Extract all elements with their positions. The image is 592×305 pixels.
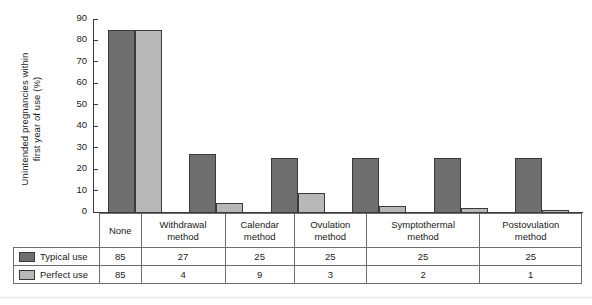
category-label-line: None [100,225,141,237]
table-cell-value: 4 [141,266,225,284]
bar-perfect [542,210,569,212]
table-cell-value: 9 [225,266,294,284]
bar-typical [271,158,298,212]
bar-typical [352,158,379,212]
y-axis-title: Unintended pregnancies within first year… [16,19,46,219]
page-bottom-edge [0,296,592,299]
category-label-line: method [367,231,480,243]
table-cell-value: 2 [366,266,480,284]
table-row-categories: NoneWithdrawalmethodCalendarmethodOvulat… [14,214,582,248]
legend-label: Typical use [40,251,88,262]
table-cell-value: 25 [366,248,480,266]
category-header-cell: Symptothermalmethod [366,214,480,248]
bar-group [257,19,339,212]
y-axis-title-line-2: first year of use (%) [31,77,43,161]
table-cell-value: 1 [480,266,582,284]
category-label-line: method [226,231,294,243]
bar-group [94,19,176,212]
chart-page: Unintended pregnancies within first year… [0,0,592,305]
legend-cell: Typical use [14,248,100,266]
category-header-cell: None [100,214,142,248]
table-cell-value: 3 [294,266,366,284]
bar-perfect [461,208,488,212]
bar-perfect [379,206,406,212]
category-label-line: Postovulation [480,219,581,231]
y-axis-tick-label: 30 [76,141,87,152]
bar-group [176,19,258,212]
y-axis-tick-label: 20 [76,162,87,173]
table-cell-value: 25 [480,248,582,266]
legend-swatch-typical [19,252,35,262]
bar-group [502,19,584,212]
y-axis-tick-label: 80 [76,33,87,44]
table-cell-value: 85 [100,266,142,284]
bar-typical [515,158,542,212]
y-axis-tick-label: 60 [76,76,87,87]
y-axis-tick-label: 10 [76,184,87,195]
bar-typical [434,158,461,212]
category-header-cell: Ovulationmethod [294,214,366,248]
category-label-line: method [142,231,225,243]
data-table: NoneWithdrawalmethodCalendarmethodOvulat… [13,213,582,284]
legend-cell: Perfect use [14,266,100,284]
category-header-cell: Postovulationmethod [480,214,582,248]
bar-groups [94,19,583,212]
legend-entry: Perfect use [19,269,99,280]
bar-typical [189,154,216,212]
bar-group [420,19,502,212]
y-axis-tick-label: 40 [76,119,87,130]
table-cell-value: 85 [100,248,142,266]
y-axis-tick-label: 90 [76,12,87,23]
legend-entry: Typical use [19,251,99,262]
table-cell-value: 25 [294,248,366,266]
bar-typical [108,30,135,212]
category-header-cell: Calendarmethod [225,214,294,248]
table-row: Perfect use8549321 [14,266,582,284]
bar-perfect [298,193,325,212]
category-label-line: method [295,231,366,243]
table-corner-spacer [14,214,100,248]
table-cell-value: 25 [225,248,294,266]
bar-group [339,19,421,212]
category-label-line: Symptothermal [367,219,480,231]
category-label-line: method [480,231,581,243]
bar-perfect [135,30,162,212]
plot-area: 9080706050403020100 [93,19,583,213]
legend-label: Perfect use [40,269,88,280]
table-row: Typical use852725252525 [14,248,582,266]
y-axis-title-line-1: Unintended pregnancies within [19,53,31,186]
category-label-line: Withdrawal [142,219,225,231]
table-cell-value: 27 [141,248,225,266]
bar-perfect [216,203,243,212]
legend-swatch-perfect [19,270,35,280]
category-header-cell: Withdrawalmethod [141,214,225,248]
category-label-line: Calendar [226,219,294,231]
y-axis-tick-label: 70 [76,55,87,66]
category-label-line: Ovulation [295,219,366,231]
y-axis-tick-label: 50 [76,98,87,109]
